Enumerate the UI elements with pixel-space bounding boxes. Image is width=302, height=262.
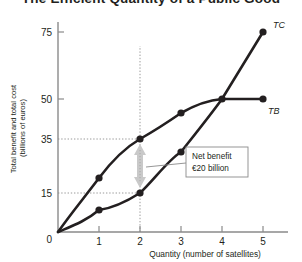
data-point-tb-2 (136, 135, 143, 142)
x-tick-label-3: 3 (178, 236, 184, 247)
y-tick-label-15: 15 (41, 188, 53, 199)
y-tick-label-50: 50 (41, 94, 53, 105)
data-point-tb-3 (177, 109, 184, 116)
chart-figure: The Efficient Quantity of a Public Good … (0, 0, 302, 262)
series-markers-tc (95, 28, 266, 213)
x-tick-label-2: 2 (137, 236, 143, 247)
y-tick-labels: 75 50 35 15 0 (41, 27, 53, 245)
series-label-tb: TB (268, 106, 280, 116)
data-point-tc-1 (95, 206, 102, 213)
data-point-tc-2 (136, 189, 143, 196)
data-point-tb-4 (218, 95, 225, 102)
callout-line-1: Net benefit (192, 152, 232, 161)
axes (58, 22, 288, 232)
series-line-tc (58, 32, 263, 232)
chart-plot-area: 75 50 35 15 0 1 2 3 4 5 Total benefit an… (0, 0, 302, 262)
guide-lines (58, 46, 140, 232)
y-tick-label-35: 35 (41, 134, 53, 145)
data-point-tb-5 (259, 95, 266, 102)
callout-line-2: €20 billion (192, 164, 229, 173)
net-benefit-arrow (134, 144, 146, 188)
data-point-tc-3 (177, 148, 184, 155)
x-tick-labels: 1 2 3 4 5 (96, 236, 266, 247)
data-point-tb-1 (95, 174, 102, 181)
y-tick-label-75: 75 (41, 27, 53, 38)
y-tick-label-0: 0 (46, 234, 52, 245)
y-axis-title: Total benefit and total cost (billions o… (9, 83, 27, 173)
x-tick-label-1: 1 (96, 236, 102, 247)
x-tick-label-4: 4 (219, 236, 225, 247)
net-benefit-callout: Net benefit €20 billion (186, 147, 248, 177)
x-axis-title: Quantity (number of satellites) (149, 249, 261, 259)
series-label-tc: TC (273, 20, 285, 30)
x-tick-label-5: 5 (260, 236, 266, 247)
data-point-tc-5 (259, 28, 266, 35)
